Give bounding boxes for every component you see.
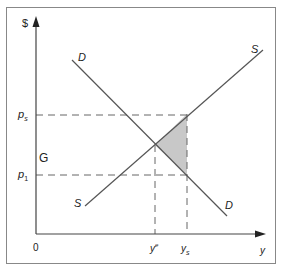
supply-curve	[85, 50, 263, 206]
demand-label-bottom: D	[225, 199, 233, 211]
y-axis-label: $	[22, 17, 28, 29]
ys-label: ys	[180, 243, 190, 256]
demand-label-top: D	[78, 51, 86, 63]
diagram-canvas: $ y 0 G D D S S ps p1 ye ys	[0, 0, 283, 270]
dashed-guides	[36, 114, 187, 234]
region-g-label: G	[39, 151, 48, 165]
supply-demand-diagram: $ y 0 G D D S S ps p1 ye ys	[0, 0, 283, 270]
ps-label: ps	[17, 108, 28, 122]
y-axis-arrow-icon	[33, 16, 40, 27]
supply-label-top: S	[251, 43, 259, 55]
p1-label: p1	[17, 168, 28, 182]
x-axis-label: y	[259, 245, 266, 256]
deadweight-loss-triangle	[155, 114, 187, 175]
ye-label: ye	[149, 242, 159, 254]
demand-curve	[72, 60, 227, 216]
frame-border	[7, 8, 276, 264]
origin-label: 0	[33, 242, 39, 253]
supply-label-bottom: S	[74, 197, 82, 209]
x-axis-arrow-icon	[255, 231, 266, 238]
